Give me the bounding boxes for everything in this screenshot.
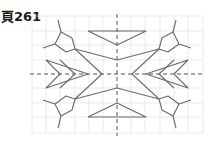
center-axes xyxy=(30,14,205,136)
grid-pattern-figure xyxy=(0,0,218,146)
